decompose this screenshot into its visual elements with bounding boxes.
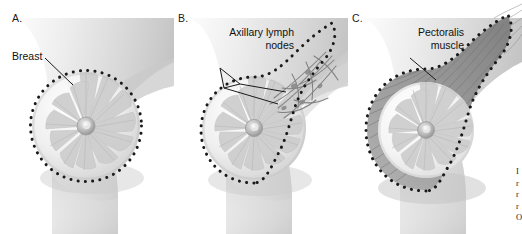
- panel-a-illustration: [0, 0, 174, 234]
- panel-c: C. Pectoralis muscle: [348, 0, 522, 234]
- label-pectoralis-muscle: Pectoralis muscle: [354, 26, 464, 51]
- panel-a: A. Breast: [0, 0, 174, 234]
- panel-a-letter: A.: [12, 12, 22, 24]
- panel-c-letter: C.: [352, 12, 363, 24]
- panel-b: B. Axillary lymph nodes: [174, 0, 348, 234]
- figure-breast-anatomy: A. Breast: [0, 0, 522, 234]
- label-axillary-lymph-nodes: Axillary lymph nodes: [182, 26, 294, 51]
- label-breast: Breast: [12, 50, 42, 63]
- edge-caption-clipped: I r r r O: [516, 166, 522, 226]
- panel-b-letter: B.: [178, 12, 188, 24]
